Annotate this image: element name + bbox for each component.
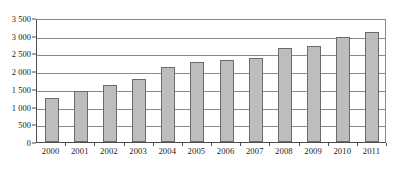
x-axis-tick-label: 2003 — [129, 146, 147, 157]
x-axis-tick-label: 2000 — [42, 146, 60, 157]
y-axis-tick-label: 2 000 — [12, 68, 31, 77]
x-axis-tick — [386, 143, 387, 146]
x-axis-tick-label: 2010 — [333, 146, 351, 157]
bar — [336, 37, 350, 142]
bar — [161, 67, 175, 142]
y-axis-tick-label: 1 000 — [12, 103, 31, 112]
y-axis-tick-label: 3 500 — [12, 15, 31, 24]
x-axis-tick-label: 2006 — [217, 146, 235, 157]
x-axis-tick — [94, 143, 95, 146]
plot-area — [36, 19, 386, 143]
x-axis-tick-label: 2005 — [188, 146, 206, 157]
bar — [307, 46, 321, 142]
x-axis-tick — [153, 143, 154, 146]
x-axis: 2000200120022003200420052006200720082009… — [36, 146, 386, 160]
x-axis-tick — [182, 143, 183, 146]
x-axis-tick — [124, 143, 125, 146]
y-axis-tick-label: 500 — [18, 121, 31, 130]
bar — [74, 91, 88, 142]
y-axis-tick-label: 0 — [27, 139, 31, 148]
x-axis-tick-label: 2009 — [304, 146, 322, 157]
x-axis-tick-label: 2004 — [158, 146, 176, 157]
bar — [103, 85, 117, 142]
x-axis-tick — [240, 143, 241, 146]
x-axis-tick-label: 2001 — [71, 146, 89, 157]
bar — [45, 98, 59, 142]
x-axis-tick — [328, 143, 329, 146]
x-axis-tick-label: 2007 — [246, 146, 264, 157]
y-axis-tick-label: 1 500 — [12, 85, 31, 94]
bar — [249, 58, 263, 142]
y-axis: 05001 0001 5002 0002 5003 0003 500 — [0, 0, 34, 172]
bar-series — [37, 20, 386, 142]
bar — [190, 62, 204, 142]
x-axis-tick-label: 2002 — [100, 146, 118, 157]
x-axis-tick — [299, 143, 300, 146]
x-axis-tick — [65, 143, 66, 146]
bar-chart: 05001 0001 5002 0002 5003 0003 500 20002… — [0, 0, 396, 172]
y-axis-tick-label: 2 500 — [12, 50, 31, 59]
bar — [278, 48, 292, 142]
bar — [132, 79, 146, 142]
bar — [220, 60, 234, 142]
x-axis-tick — [269, 143, 270, 146]
x-axis-tick — [357, 143, 358, 146]
y-axis-tick-label: 3 000 — [12, 32, 31, 41]
bar — [365, 32, 379, 142]
x-axis-tick-label: 2011 — [363, 146, 380, 157]
x-axis-tick — [211, 143, 212, 146]
x-axis-tick-label: 2008 — [275, 146, 293, 157]
